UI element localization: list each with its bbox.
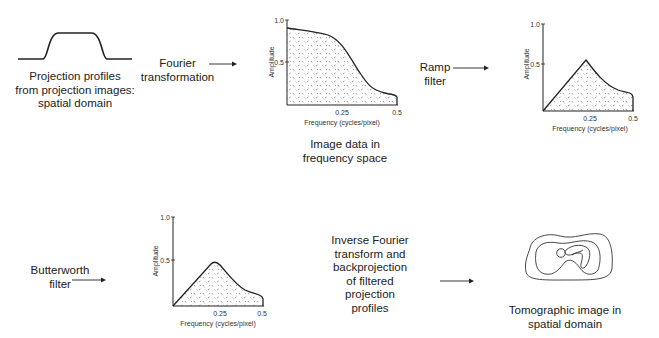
svg-text:0.5: 0.5 bbox=[628, 115, 638, 122]
frequency-spectrum-chart: 1.0 0.5 0.25 0.5 Frequency (cycles/pixel… bbox=[268, 17, 402, 128]
arrow-inverse-icon bbox=[440, 279, 474, 284]
svg-text:Amplitude: Amplitude bbox=[152, 245, 160, 276]
fourier-transformation-label: Fourier transformation bbox=[140, 57, 215, 84]
svg-text:0.5: 0.5 bbox=[392, 109, 402, 116]
tomographic-image-caption: Tomographic image in spatial domain bbox=[505, 304, 625, 331]
svg-text:1.0: 1.0 bbox=[530, 21, 540, 28]
butterworth-filter-chart: 1.0 0.5 0.25 0.5 Frequency (cycles/pixel… bbox=[152, 214, 267, 329]
projection-profiles-caption: Projection profiles from projection imag… bbox=[5, 70, 145, 111]
svg-text:Frequency (cycles/pixel): Frequency (cycles/pixel) bbox=[304, 119, 379, 127]
tomographic-image bbox=[525, 234, 612, 280]
svg-text:0.25: 0.25 bbox=[583, 115, 597, 122]
butterworth-filter-label: Butterworth filter bbox=[20, 264, 100, 291]
ramp-filter-chart: 1.0 0.5 0.25 0.5 Frequency (cycles/pixel… bbox=[523, 21, 638, 134]
svg-text:0.5: 0.5 bbox=[274, 59, 284, 66]
svg-text:Amplitude: Amplitude bbox=[268, 46, 276, 77]
svg-text:0.5: 0.5 bbox=[257, 310, 267, 317]
svg-text:Frequency (cycles/pixel): Frequency (cycles/pixel) bbox=[552, 125, 627, 133]
svg-text:0.5: 0.5 bbox=[160, 257, 170, 264]
svg-text:1.0: 1.0 bbox=[160, 214, 170, 221]
svg-text:0.5: 0.5 bbox=[530, 61, 540, 68]
spectrum-area bbox=[287, 28, 397, 105]
arrow-ramp-icon bbox=[453, 66, 489, 71]
svg-text:0.25: 0.25 bbox=[213, 310, 227, 317]
projection-profile-curve bbox=[18, 33, 132, 59]
svg-text:1.0: 1.0 bbox=[274, 17, 284, 24]
svg-text:Frequency (cycles/pixel): Frequency (cycles/pixel) bbox=[180, 320, 255, 328]
svg-text:Amplitude: Amplitude bbox=[523, 48, 531, 79]
svg-text:0.25: 0.25 bbox=[335, 109, 349, 116]
ramp-filter-label: Ramp filter bbox=[415, 61, 455, 88]
inverse-fourier-label: Inverse Fourier transform and backprojec… bbox=[325, 234, 415, 315]
image-data-caption: Image data in frequency space bbox=[290, 138, 400, 165]
